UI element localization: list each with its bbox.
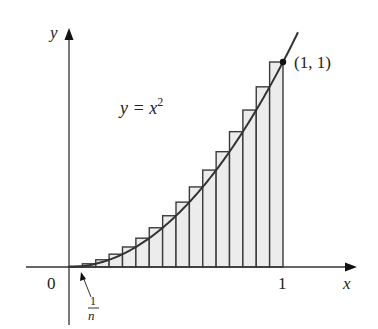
riemann-rectangle — [176, 202, 189, 267]
riemann-rectangle — [256, 87, 269, 267]
x-axis-label: x — [342, 274, 351, 293]
width-fraction-numerator: 1 — [90, 294, 96, 308]
width-pointer-arrow-icon — [80, 272, 86, 281]
width-fraction-denominator: n — [88, 308, 95, 323]
riemann-rectangle — [243, 110, 256, 267]
x-axis-arrow-icon — [345, 263, 357, 272]
riemann-sum-figure: y x 0 1 y = x2 (1, 1) 1 n — [0, 0, 378, 329]
y-axis-label: y — [48, 23, 58, 42]
y-axis-arrow-icon — [65, 28, 74, 40]
curve-equation-lhs: y = x — [118, 98, 157, 118]
riemann-rectangles — [69, 62, 283, 267]
riemann-rectangle — [163, 216, 176, 267]
point-1-1-marker — [280, 59, 286, 65]
curve-equation-label: y = x2 — [118, 95, 163, 118]
point-label: (1, 1) — [294, 53, 331, 72]
origin-label: 0 — [47, 274, 56, 293]
x-tick-1-label: 1 — [278, 274, 287, 293]
riemann-rectangle — [230, 132, 243, 267]
riemann-rectangle — [270, 62, 283, 267]
curve-equation-exponent: 2 — [157, 95, 163, 109]
plot-canvas: y x 0 1 y = x2 (1, 1) 1 n — [0, 0, 378, 329]
